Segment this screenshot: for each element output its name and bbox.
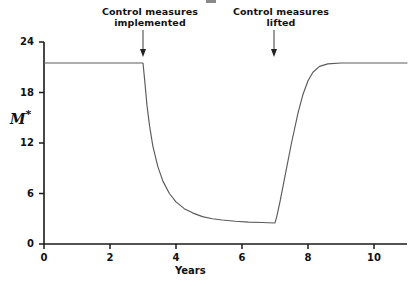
axis-group [39, 42, 407, 249]
arrow-lifted [271, 30, 277, 57]
chart-figure [0, 0, 418, 287]
data-curve-m-star [44, 63, 407, 223]
arrow-implemented [140, 30, 146, 57]
annotation-arrows [140, 30, 277, 57]
